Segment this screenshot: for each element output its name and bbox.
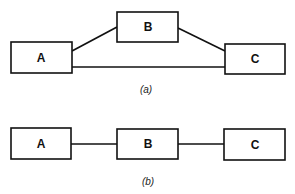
node-a: A [11, 128, 71, 159]
edge-b-to-c [178, 28, 225, 51]
node-b: B [117, 129, 178, 159]
node-c-label: C [251, 138, 260, 152]
node-b: B [117, 12, 178, 42]
node-a-label: A [37, 137, 46, 151]
node-a-label: A [37, 51, 46, 65]
edge-a-to-b [72, 27, 117, 51]
caption-a: (a) [140, 84, 152, 95]
node-b-label: B [144, 137, 153, 151]
diagram-a: A B C (a) [11, 12, 285, 95]
caption-b: (b) [142, 176, 154, 187]
diagram-b: A B C (b) [11, 128, 285, 187]
node-c: C [224, 129, 285, 160]
node-c: C [225, 44, 285, 74]
node-b-label: B [144, 20, 153, 34]
network-diagram: A B C (a) A B C (b) [0, 0, 295, 194]
node-a: A [11, 42, 72, 73]
node-c-label: C [251, 52, 260, 66]
